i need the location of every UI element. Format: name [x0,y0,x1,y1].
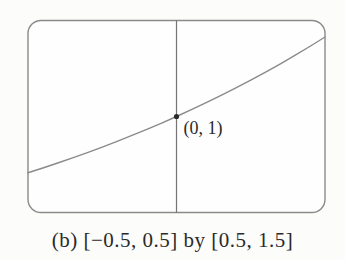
function-graph-figure: (0, 1) (b) [−0.5, 0.5] by [0.5, 1.5] [0,0,345,260]
figure-caption: (b) [−0.5, 0.5] by [0.5, 1.5] [0,228,345,253]
point-label: (0, 1) [184,118,223,139]
point-marker [174,114,179,119]
viewing-window-plot: (0, 1) [0,0,345,226]
